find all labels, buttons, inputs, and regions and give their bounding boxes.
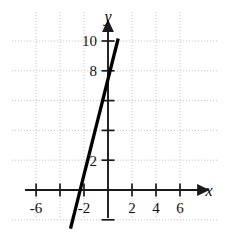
y-tick-label: 2	[90, 153, 98, 169]
coordinate-plane-line-graph: -6 -2 2 4 6 2 8 10 x y	[0, 0, 234, 233]
y-axis-label: y	[102, 8, 112, 26]
x-tick-label: 2	[128, 200, 136, 216]
x-tick-label: -6	[30, 200, 43, 216]
x-tick-label: 6	[176, 200, 184, 216]
x-tick-labels: -6 -2 2 4 6	[30, 200, 184, 216]
x-tick-label: 4	[152, 200, 160, 216]
x-axis-label: x	[204, 182, 212, 199]
grid-lines	[12, 12, 218, 220]
y-tick-label: 10	[82, 33, 97, 49]
graph-canvas: -6 -2 2 4 6 2 8 10 x y	[0, 0, 234, 233]
y-tick-label: 8	[90, 63, 98, 79]
x-tick-label: -2	[78, 200, 91, 216]
